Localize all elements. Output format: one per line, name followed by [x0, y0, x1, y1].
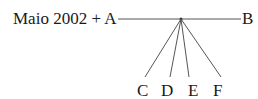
branch-label-e: E — [188, 81, 198, 99]
fan-diagram: Maio 2002 + A B C D E F — [0, 0, 258, 99]
branch-label-d: D — [161, 81, 173, 99]
root-label: Maio 2002 + A — [13, 9, 117, 28]
branch-label-f: F — [213, 81, 222, 99]
branch-line-f — [181, 19, 221, 77]
branch-label-c: C — [137, 81, 148, 99]
branch-line-e — [181, 19, 189, 77]
end-label-b: B — [242, 9, 253, 28]
